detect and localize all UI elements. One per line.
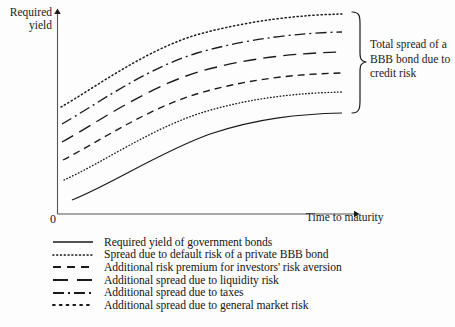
- curve-general-market-risk: [61, 14, 342, 107]
- legend-label: Additional spread due to liquidity risk: [96, 274, 279, 287]
- legend-item-general-market-risk: Additional spread due to general market …: [50, 299, 380, 312]
- legend-item-default-risk: Spread due to default risk of a private …: [50, 249, 380, 262]
- legend: Required yield of government bonds Sprea…: [50, 236, 380, 312]
- y-axis-label: Required yield: [4, 6, 52, 32]
- origin-label: 0: [50, 213, 56, 226]
- total-spread-brace: [352, 12, 366, 113]
- curve-government-bonds: [72, 113, 342, 200]
- legend-label: Required yield of government bonds: [96, 236, 272, 249]
- series-curves: [61, 14, 342, 200]
- legend-item-government-bonds: Required yield of government bonds: [50, 236, 380, 249]
- curve-taxes: [62, 32, 342, 124]
- legend-swatch-long-dashed: [50, 274, 96, 286]
- legend-item-taxes: Additional spread due to taxes: [50, 286, 380, 299]
- legend-label: Spread due to default risk of a private …: [96, 248, 329, 261]
- legend-label: Additional risk premium for investors' r…: [96, 261, 342, 274]
- legend-item-risk-aversion: Additional risk premium for investors' r…: [50, 261, 380, 274]
- legend-swatch-dashed: [50, 261, 96, 273]
- legend-item-liquidity-risk: Additional spread due to liquidity risk: [50, 274, 380, 287]
- legend-swatch-solid: [50, 236, 96, 248]
- legend-label: Additional spread due to general market …: [96, 299, 309, 312]
- legend-swatch-fine-dotted: [50, 249, 96, 261]
- legend-swatch-dash-dot: [50, 287, 96, 299]
- figure-root: Required yield Time to maturity 0 Total …: [0, 0, 455, 327]
- legend-swatch-coarse-dotted: [50, 299, 96, 311]
- x-axis-label: Time to maturity: [306, 211, 384, 224]
- curve-liquidity-risk: [62, 52, 342, 142]
- total-spread-annotation: Total spread of a BBB bond due to credit…: [370, 37, 454, 81]
- legend-label: Additional spread due to taxes: [96, 286, 244, 299]
